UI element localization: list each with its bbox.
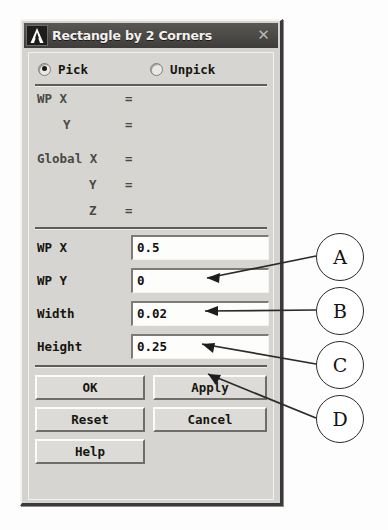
readout-equals-global-x: = [125, 151, 133, 166]
help-button[interactable]: Help [35, 439, 145, 464]
apply-button[interactable]: Apply [153, 375, 267, 400]
readout-equals-global-z: = [125, 203, 133, 218]
width-input[interactable]: 0.02 [131, 301, 269, 326]
readout-equals-wp-x: = [125, 91, 133, 106]
field-row-wp-y: WP Y 0 [33, 266, 269, 294]
pick-mode-radio-group: Pick Unpick [32, 56, 270, 82]
height-input[interactable]: 0.25 [131, 334, 269, 359]
wp-y-input[interactable]: 0 [131, 268, 269, 293]
close-icon[interactable]: ✕ [254, 26, 273, 45]
readout-label-global-y: Y [89, 177, 97, 192]
radio-unpick-label: Unpick [170, 62, 215, 77]
separator-bottom [35, 365, 267, 368]
scanned-page-background: Rectangle by 2 Corners ✕ Pick Unpick WP … [0, 0, 388, 530]
separator-middle [35, 227, 267, 230]
field-row-width: Width 0.02 [33, 299, 269, 327]
field-row-height: Height 0.25 [33, 332, 269, 360]
cancel-button[interactable]: Cancel [153, 407, 267, 432]
annotation-callout-b: B [316, 287, 364, 335]
radio-unpick[interactable]: Unpick [150, 62, 215, 77]
ok-button[interactable]: OK [35, 375, 145, 400]
radio-dot-unpick-icon [150, 63, 163, 76]
readout-equals-global-y: = [125, 177, 133, 192]
radio-dot-pick-icon [38, 63, 51, 76]
field-label-width: Width [33, 306, 131, 321]
ansys-a-logo-icon [26, 25, 48, 46]
annotation-callout-d: D [316, 395, 364, 443]
dialog-titlebar[interactable]: Rectangle by 2 Corners ✕ [24, 23, 278, 48]
readout-label-global-z: Z [89, 203, 97, 218]
field-label-height: Height [33, 339, 131, 354]
field-label-wp-x: WP X [33, 240, 131, 255]
rectangle-by-2-corners-dialog: Rectangle by 2 Corners ✕ Pick Unpick WP … [20, 19, 283, 506]
field-row-wp-x: WP X 0.5 [33, 233, 269, 261]
annotation-callout-c: C [316, 341, 364, 389]
dialog-title: Rectangle by 2 Corners [52, 28, 254, 43]
radio-pick[interactable]: Pick [38, 62, 88, 77]
readout-label-wp-x: WP X [37, 91, 67, 106]
dialog-client-area: Pick Unpick WP X = Y = Global X = Y = Z … [28, 52, 274, 500]
readout-label-wp-y: Y [63, 117, 71, 132]
separator-top [35, 84, 267, 87]
field-label-wp-y: WP Y [33, 273, 131, 288]
readout-label-global-x: Global X [37, 151, 97, 166]
reset-button[interactable]: Reset [35, 407, 145, 432]
annotation-callout-a: A [316, 233, 364, 281]
wp-x-input[interactable]: 0.5 [131, 235, 269, 260]
readout-equals-wp-y: = [125, 117, 133, 132]
radio-pick-label: Pick [58, 62, 88, 77]
